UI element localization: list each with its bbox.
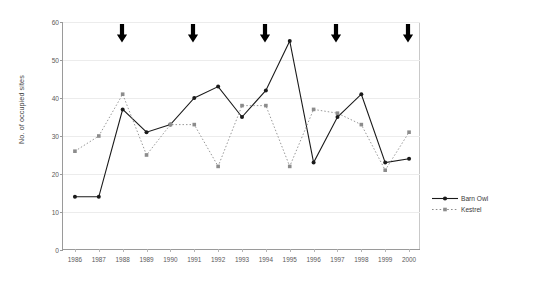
legend-item-barn-owl: Barn Owl [432, 193, 488, 204]
data-point [192, 123, 196, 127]
down-arrow-icon [116, 24, 127, 43]
data-point [407, 130, 411, 134]
data-point [383, 161, 387, 165]
data-point [97, 134, 101, 138]
data-point [97, 195, 101, 199]
x-tick-label: 1991 [187, 256, 201, 263]
y-tick-label: 30 [52, 133, 59, 140]
solid-line-circle-marker-icon [432, 193, 458, 204]
data-point [359, 92, 363, 96]
data-point [336, 111, 340, 115]
x-tick-label: 1994 [259, 256, 273, 263]
y-tick-label: 0 [55, 247, 59, 254]
y-tick-mark [60, 250, 63, 251]
down-arrow-icon [188, 24, 199, 43]
x-tick-label: 1999 [378, 256, 392, 263]
chart-legend: Barn Owl Kestrel [432, 193, 488, 215]
x-tick-label: 1997 [330, 256, 344, 263]
data-point [121, 107, 125, 111]
data-point [192, 96, 196, 100]
data-point [145, 153, 149, 157]
data-point [288, 39, 292, 43]
data-point [407, 157, 411, 161]
data-point [216, 165, 220, 169]
down-arrow-icon [403, 24, 414, 43]
dotted-line-square-marker-icon [432, 204, 458, 215]
x-tick-label: 1993 [235, 256, 249, 263]
x-tick-label: 1992 [211, 256, 225, 263]
x-tick-label: 1996 [306, 256, 320, 263]
down-arrow-icon [259, 24, 270, 43]
data-point [335, 115, 339, 119]
y-axis-title: No. of occupied sites [17, 45, 26, 175]
down-arrow-icon [331, 24, 342, 43]
legend-item-kestrel: Kestrel [432, 204, 488, 215]
data-point [169, 123, 173, 127]
x-tick-label: 1990 [163, 256, 177, 263]
data-point [145, 130, 149, 134]
y-tick-label: 60 [52, 19, 59, 26]
legend-label-kestrel: Kestrel [461, 204, 482, 215]
x-tick-label: 1987 [92, 256, 106, 263]
plot-area: 0102030405060 19861987198819891990199119… [62, 22, 420, 250]
data-series-layer [63, 22, 421, 250]
data-point [264, 104, 268, 108]
x-tick-label: 1989 [139, 256, 153, 263]
y-tick-label: 20 [52, 171, 59, 178]
data-point [216, 85, 220, 89]
data-point [240, 104, 244, 108]
y-tick-label: 10 [52, 209, 59, 216]
y-tick-label: 40 [52, 95, 59, 102]
data-point [360, 123, 364, 127]
x-tick-label: 1995 [283, 256, 297, 263]
data-point [264, 88, 268, 92]
data-point [288, 165, 292, 169]
data-point [312, 108, 316, 112]
data-point [240, 115, 244, 119]
data-point [383, 168, 387, 172]
data-point [121, 92, 125, 96]
data-point [312, 161, 316, 165]
x-tick-label: 1998 [354, 256, 368, 263]
x-tick-label: 1988 [116, 256, 130, 263]
y-tick-label: 50 [52, 57, 59, 64]
data-point [73, 195, 77, 199]
x-tick-label: 1986 [68, 256, 82, 263]
chart-figure: No. of occupied sites 0102030405060 1986… [0, 0, 535, 288]
data-point [73, 149, 77, 153]
x-tick-label: 2000 [402, 256, 416, 263]
legend-label-barn-owl: Barn Owl [461, 193, 488, 204]
